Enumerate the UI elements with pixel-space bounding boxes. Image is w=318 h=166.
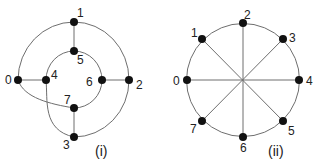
edge-4-3: [46, 80, 74, 137]
node-0: [14, 76, 22, 84]
label-2: 2: [244, 8, 251, 22]
node-7: [198, 117, 206, 125]
graph-i: 0 1 2 3 4 5 6 7 (i): [5, 6, 143, 159]
label-7: 7: [64, 93, 71, 107]
label-7: 7: [190, 122, 197, 136]
edge-0-1: [18, 22, 74, 80]
label-3: 3: [289, 31, 296, 45]
node-1: [198, 35, 206, 43]
label-6: 6: [240, 141, 247, 155]
edge-1-2: [74, 22, 129, 80]
label-0: 0: [5, 73, 12, 87]
node-7: [70, 104, 78, 112]
node-5: [279, 117, 287, 125]
node-4: [295, 76, 303, 84]
node-6: [98, 76, 106, 84]
graph-ii: 0 1 2 3 4 5 6 7 (ii): [173, 8, 313, 159]
label-4: 4: [51, 68, 58, 82]
node-6: [239, 133, 247, 141]
label-3: 3: [63, 138, 70, 152]
node-3: [279, 35, 287, 43]
label-5: 5: [288, 124, 295, 138]
label-0: 0: [173, 74, 180, 88]
edge-2-3: [74, 80, 129, 137]
label-1: 1: [191, 26, 198, 40]
caption-i: (i): [95, 143, 107, 159]
caption-ii: (ii): [268, 143, 284, 159]
node-3: [70, 133, 78, 141]
node-0: [183, 76, 191, 84]
label-4: 4: [306, 74, 313, 88]
label-1: 1: [77, 6, 84, 20]
diagram-canvas: 0 1 2 3 4 5 6 7 (i) 0 1: [0, 0, 318, 166]
label-2: 2: [136, 78, 143, 92]
node-2: [125, 76, 133, 84]
node-4: [42, 76, 50, 84]
label-5: 5: [77, 53, 84, 67]
label-6: 6: [86, 75, 93, 89]
